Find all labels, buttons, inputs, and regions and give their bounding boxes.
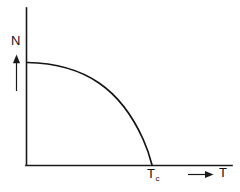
y-axis-label: N [11,34,20,47]
critical-temperature-subscript: c [155,174,159,183]
arrow-up-icon [13,55,20,92]
order-parameter-curve [27,63,152,166]
plot-canvas [0,0,240,192]
x-axis-label: T [219,166,227,179]
critical-temperature-label: Tc [147,167,159,182]
order-parameter-figure: N Tc T [0,0,240,192]
arrow-right-icon [188,171,214,178]
critical-temperature-symbol: T [147,166,155,181]
